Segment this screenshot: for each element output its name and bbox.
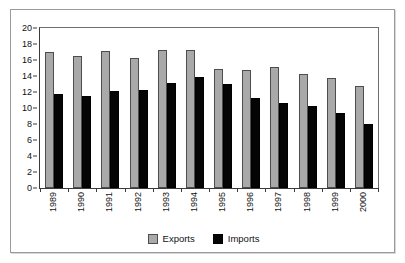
y-axis-tick-mark: [33, 76, 37, 77]
y-axis-tick-label: 14: [22, 72, 32, 81]
bar-imports: [223, 84, 232, 188]
bar-chart: 02468101214161820 1989199019911992199319…: [11, 10, 396, 254]
y-axis-tick-label: 0: [27, 184, 32, 193]
bar-imports: [195, 77, 204, 188]
y-axis: 02468101214161820: [11, 27, 37, 189]
bar-exports: [130, 58, 139, 188]
legend-label: Imports: [228, 234, 260, 244]
x-axis-tick-label: 1991: [105, 192, 114, 212]
x-axis-tick-mark: [350, 188, 351, 192]
y-axis-tick-mark: [33, 44, 37, 45]
y-axis-tick-label: 16: [22, 56, 32, 65]
x-axis-tick-mark: [209, 188, 210, 192]
legend-label: Exports: [163, 234, 195, 244]
bar-imports: [279, 103, 288, 188]
legend-swatch-icon: [213, 234, 223, 244]
bar-group: [158, 28, 176, 188]
x-axis-tick-label: 1996: [246, 192, 255, 212]
x-axis-tick-label: 1992: [134, 192, 143, 212]
y-axis-tick-mark: [33, 156, 37, 157]
bar-group: [270, 28, 288, 188]
x-axis: 1989199019911992199319941995199619971998…: [40, 192, 378, 234]
y-axis-tick-mark: [33, 140, 37, 141]
x-axis-tick-label: 1989: [49, 192, 58, 212]
y-axis-tick-label: 8: [27, 120, 32, 129]
bars-layer: [40, 28, 378, 188]
x-axis-tick-mark: [181, 188, 182, 192]
x-axis-tick-label: 1993: [162, 192, 171, 212]
bar-imports: [110, 91, 119, 188]
bar-exports: [355, 86, 364, 188]
bar-group: [214, 28, 232, 188]
bar-exports: [327, 78, 336, 188]
bar-exports: [73, 56, 82, 188]
x-axis-tick-mark: [153, 188, 154, 192]
bar-imports: [308, 106, 317, 188]
bar-imports: [364, 124, 373, 188]
bar-imports: [336, 113, 345, 188]
x-axis-tick-mark: [96, 188, 97, 192]
y-axis-tick-mark: [33, 172, 37, 173]
y-axis-tick-mark: [33, 92, 37, 93]
y-axis-tick-label: 20: [22, 24, 32, 33]
bar-exports: [45, 52, 54, 188]
y-axis-tick-label: 12: [22, 88, 32, 97]
x-axis-tick-mark: [125, 188, 126, 192]
x-axis-tick-label: 1997: [274, 192, 283, 212]
bar-imports: [167, 83, 176, 188]
bar-group: [130, 28, 148, 188]
bar-imports: [139, 90, 148, 188]
figure-frame: 02468101214161820 1989199019911992199319…: [10, 9, 395, 253]
x-axis-tick-label: 2000: [359, 192, 368, 212]
x-axis-tick-mark: [237, 188, 238, 192]
bar-exports: [101, 51, 110, 188]
bar-group: [186, 28, 204, 188]
y-axis-tick-mark: [33, 28, 37, 29]
x-axis-tick-label: 1995: [218, 192, 227, 212]
x-axis-tick-label: 1994: [190, 192, 199, 212]
bar-exports: [270, 67, 279, 188]
chart-legend: ExportsImports: [11, 234, 396, 244]
x-axis-tick-mark: [294, 188, 295, 192]
x-axis-tick-mark: [322, 188, 323, 192]
bar-exports: [242, 70, 251, 188]
bar-exports: [214, 69, 223, 188]
bar-exports: [299, 74, 308, 188]
legend-item-exports[interactable]: Exports: [148, 234, 195, 244]
y-axis-tick-label: 18: [22, 40, 32, 49]
bar-group: [242, 28, 260, 188]
bar-exports: [158, 50, 167, 188]
bar-imports: [54, 94, 63, 188]
bar-group: [45, 28, 63, 188]
y-axis-tick-mark: [33, 108, 37, 109]
bar-imports: [251, 98, 260, 188]
legend-item-imports[interactable]: Imports: [213, 234, 260, 244]
x-axis-tick-mark: [68, 188, 69, 192]
y-axis-tick-mark: [33, 60, 37, 61]
x-axis-tick-label: 1990: [77, 192, 86, 212]
y-axis-tick-mark: [33, 188, 37, 189]
bar-exports: [186, 50, 195, 188]
bar-group: [299, 28, 317, 188]
legend-swatch-icon: [148, 234, 158, 244]
y-axis-tick-label: 4: [27, 152, 32, 161]
y-axis-tick-label: 2: [27, 168, 32, 177]
x-axis-tick-mark: [378, 188, 379, 192]
x-axis-tick-label: 1999: [331, 192, 340, 212]
bar-imports: [82, 96, 91, 188]
bar-group: [101, 28, 119, 188]
y-axis-tick-label: 6: [27, 136, 32, 145]
y-axis-tick-label: 10: [22, 104, 32, 113]
y-axis-tick-mark: [33, 124, 37, 125]
bar-group: [327, 28, 345, 188]
bar-group: [73, 28, 91, 188]
x-axis-tick-mark: [265, 188, 266, 192]
x-axis-tick-mark: [40, 188, 41, 192]
bar-group: [355, 28, 373, 188]
x-axis-tick-label: 1998: [303, 192, 312, 212]
